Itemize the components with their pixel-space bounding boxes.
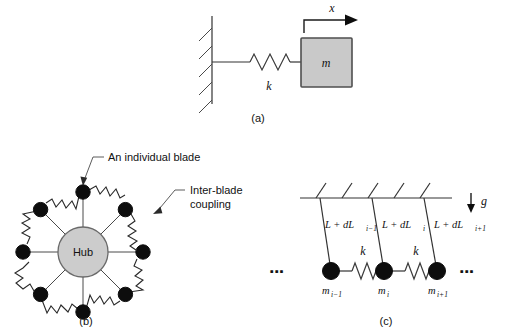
x-arrow-head bbox=[345, 15, 358, 26]
gravity-label: g bbox=[481, 194, 487, 208]
pendulum-bob-3 bbox=[429, 263, 446, 280]
blade-node-left bbox=[16, 245, 30, 259]
panel-a-caption: (a) bbox=[251, 112, 264, 124]
pendulum-bob-2 bbox=[376, 263, 393, 280]
hub-label: Hub bbox=[73, 246, 93, 258]
chain-ellipsis-right: ▪▪▪ bbox=[460, 265, 475, 277]
blade-node-upper-left bbox=[33, 202, 47, 216]
panel-a: m k x (a) bbox=[199, 1, 358, 124]
mass-label-1: m bbox=[322, 285, 330, 296]
mass-label: m bbox=[322, 56, 331, 70]
length-label-2: L + dL bbox=[381, 219, 411, 230]
pendulum-rods bbox=[320, 198, 437, 271]
gravity-arrow-head bbox=[467, 204, 475, 213]
mass-sub-2: i bbox=[387, 290, 389, 299]
annotation-inter-blade-coupling-line2: coupling bbox=[190, 198, 231, 210]
spring-constant-label-c2: k bbox=[413, 244, 419, 258]
length-sub-2: i bbox=[423, 224, 425, 233]
annotation-inter-blade-coupling: Inter-blade coupling bbox=[153, 184, 243, 214]
wall-hatching bbox=[199, 28, 212, 113]
annotation-individual-blade: An individual blade bbox=[80, 151, 200, 186]
inter-blade-coupling-arrow-head bbox=[153, 207, 162, 214]
blade-node-lower-right bbox=[118, 287, 132, 301]
coupling-spring-2 bbox=[405, 263, 429, 279]
pendulum-rod-3 bbox=[424, 198, 437, 271]
length-label-1: L + dL bbox=[324, 219, 354, 230]
coupling-spring-1 bbox=[352, 263, 376, 279]
length-label-3: L + dL bbox=[433, 219, 463, 230]
chain-ellipsis-left: ▪▪▪ bbox=[270, 265, 285, 277]
ceiling-hatching bbox=[316, 183, 430, 198]
blade-node-top bbox=[76, 185, 90, 199]
x-coordinate-label: x bbox=[328, 1, 335, 15]
length-sub-1: i−1 bbox=[366, 224, 377, 233]
panel-b-caption: (b) bbox=[79, 315, 92, 327]
spring-constant-label: k bbox=[266, 79, 272, 93]
figure-canvas: m k x (a) bbox=[0, 0, 514, 330]
panel-b: Hub An individual blade Inter-blade coup… bbox=[15, 151, 243, 327]
blade-node-upper-right bbox=[118, 202, 132, 216]
gravity-indicator: g bbox=[467, 193, 487, 213]
pendulum-length-labels: L + dL i−1 L + dL i L + dL i+1 bbox=[324, 219, 486, 233]
x-coordinate-bracket bbox=[304, 20, 345, 33]
pendulum-rod-2 bbox=[372, 198, 384, 271]
annotation-inter-blade-coupling-line1: Inter-blade bbox=[190, 184, 243, 196]
mass-sub-3: i+1 bbox=[437, 290, 448, 299]
figure-root: m k x (a) bbox=[0, 0, 514, 330]
blade-node-right bbox=[136, 245, 150, 259]
pendulum-bob-1 bbox=[323, 263, 340, 280]
pendulum-rod-1 bbox=[320, 198, 331, 271]
mass-label-2: m bbox=[378, 285, 386, 296]
panel-c: L + dL i−1 L + dL i L + dL i+1 k k m bbox=[270, 183, 487, 327]
pendulum-mass-labels: m i−1 m i m i+1 bbox=[322, 285, 448, 299]
annotation-individual-blade-label: An individual blade bbox=[108, 151, 200, 163]
mass-label-3: m bbox=[428, 285, 436, 296]
spring-constant-label-c1: k bbox=[360, 244, 366, 258]
spring-a bbox=[250, 54, 290, 70]
length-sub-3: i+1 bbox=[475, 224, 486, 233]
blade-node-lower-left bbox=[33, 287, 47, 301]
panel-c-caption: (c) bbox=[380, 315, 393, 327]
mass-sub-1: i−1 bbox=[331, 290, 342, 299]
